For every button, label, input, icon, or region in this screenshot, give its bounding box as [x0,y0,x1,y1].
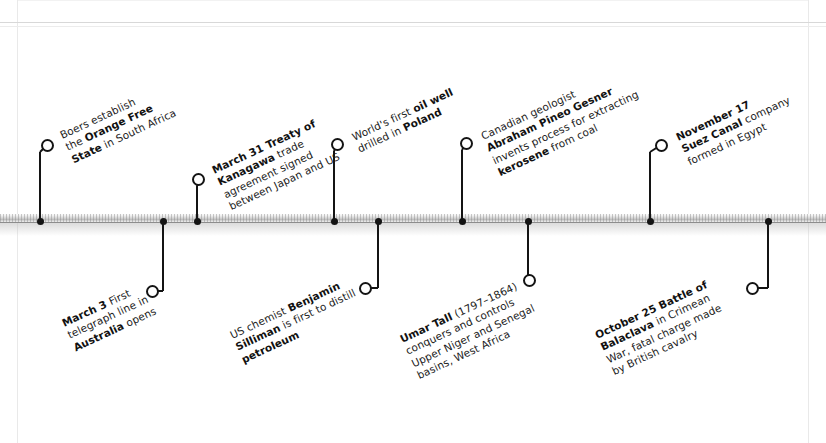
timeline-label-line: Balaclava in Crimean [599,289,718,354]
timeline-label-line: basins, West Africa [415,314,542,383]
label-emphasis: kerosene [496,144,551,178]
label-text: opens [121,304,158,330]
timeline-label-line: Australia opens [71,304,158,354]
label-emphasis: Orange Free [83,102,155,144]
timeline-marker-ring[interactable] [655,139,668,152]
page-rule-top-secondary [0,26,826,27]
timeline-marker-ring[interactable] [192,173,205,186]
timeline-marker-ring[interactable] [746,282,759,295]
label-emphasis: Benjamin [286,279,342,314]
label-emphasis: Umar Tall [398,310,454,345]
page-rule-top [0,22,826,23]
label-text: agreement signed [221,148,314,200]
timeline-event-label: November 17Suez Canal companyformed in E… [674,82,798,168]
label-emphasis: October 25 Battle of [593,278,709,341]
timeline-label-line: US chemist Benjamin [228,275,352,343]
label-emphasis: Abraham Pineo Gesner [485,85,615,154]
timeline-axis [0,214,826,236]
label-text: basins, West Africa [415,328,512,382]
timeline-label-line: Suez Canal company [680,94,793,156]
timeline-label-line: War, fatal charge made [604,301,723,366]
label-text: from coal [546,122,600,156]
timeline-marker-ring[interactable] [460,137,473,150]
timeline-event-label: Boers establishthe Orange FreeState in S… [58,82,178,167]
timeline-connector-stem [461,150,463,222]
timeline-label-line: conquers and controls [404,289,531,358]
timeline-label-line: formed in Egypt [685,106,798,168]
label-emphasis: Silliman [234,322,283,353]
timeline-label-line: by British cavalry [610,313,729,378]
label-text: conquers and controls [404,296,517,357]
label-emphasis: November 17 [674,98,752,143]
timeline-label-line: the Orange Free [64,94,173,154]
timeline-event-label: Canadian geologistAbraham Pineo Gesnerin… [479,63,646,179]
label-text: Upper Niger and Senegal [409,302,536,370]
timeline-label-line: March 31 Treaty of [210,114,325,177]
label-text: First [104,287,133,309]
label-text: formed in Egypt [685,120,768,167]
timeline-label-line: Silliman is first to distill [234,287,358,355]
timeline-event-label: March 31 Treaty ofKanagawa tradeagreemen… [210,114,342,214]
timeline-label-line: November 17 [674,82,787,144]
timeline-connector-stem [649,152,651,222]
timeline-connector-stem [39,152,41,222]
label-text: US chemist [228,303,291,341]
timeline-event-label: March 3 Firsttelegraph line inAustralia … [60,280,159,354]
timeline-event-label: US chemist BenjaminSilliman is first to … [228,275,364,367]
timeline-marker-ring[interactable] [359,282,372,295]
timeline-label-line: Kanagawa trade [216,126,331,189]
label-emphasis: Suez Canal [680,116,745,155]
label-emphasis: Balaclava [599,318,656,353]
label-text: trade [272,137,306,161]
label-text: Boers establish [58,95,137,140]
label-text: the [64,133,88,153]
timeline-label-line: Umar Tall (1797–1864) [398,277,525,346]
label-emphasis: petroleum [239,328,300,365]
timeline-label-line: October 25 Battle of [593,277,712,342]
label-text: telegraph line in [66,293,150,341]
timeline-label-line: March 3 First [60,280,147,330]
timeline-label-line: Boers establish [58,82,167,142]
label-text: invents process for extracting [490,88,640,166]
label-text: between Japan and US [227,150,342,212]
timeline-label-line: Abraham Pineo Gesner [485,76,635,156]
label-emphasis: oil well [411,86,455,115]
timeline-axis-shadow [0,223,826,236]
label-emphasis: State [69,141,103,166]
label-text: drilled in [356,123,407,155]
label-emphasis: March 31 Treaty of [210,117,317,176]
label-emphasis: Australia [71,319,125,353]
timeline-label-line: Upper Niger and Senegal [409,302,536,371]
label-text: is first to distill [277,287,357,333]
label-emphasis: Kanagawa [216,151,277,188]
timeline-event-label: October 25 Battle ofBalaclava in Crimean… [593,277,729,379]
timeline-label-line: State in South Africa [69,106,178,166]
label-emphasis: March 3 [60,298,109,329]
timeline-label-line: Canadian geologist [479,63,629,143]
timeline-event-label: Umar Tall (1797–1864)conquers and contro… [398,277,542,382]
label-text: Canadian geologist [479,88,577,142]
label-text: War, fatal charge made [604,301,723,365]
timeline-label-line: drilled in Poland [356,98,461,157]
label-text: in South Africa [99,106,178,151]
timeline-marker-ring[interactable] [331,138,344,151]
timeline-label-line: kerosene from coal [496,100,646,180]
label-text: in Crimean [651,292,712,329]
label-text: company [739,94,792,127]
timeline-marker-ring[interactable] [146,285,159,298]
label-text: by British cavalry [610,327,700,377]
page-hairline [17,0,809,1]
timeline-label-line: invents process for extracting [490,88,640,168]
timeline-label-line: World's first oil well [350,86,455,145]
timeline-label-line: telegraph line in [66,292,153,342]
label-text: (1797–1864) [449,280,519,321]
label-text: World's first [350,104,416,143]
timeline-connector-stem [333,151,335,222]
timeline-label-line: petroleum [239,299,363,367]
timeline-label-line: agreement signed [221,138,336,201]
label-emphasis: Poland [401,106,443,134]
timeline-event-label: World's first oil welldrilled in Poland [350,86,461,157]
timeline-marker-ring[interactable] [41,139,54,152]
timeline-canvas: Boers establishthe Orange FreeState in S… [0,0,826,443]
timeline-marker-ring[interactable] [523,274,536,287]
